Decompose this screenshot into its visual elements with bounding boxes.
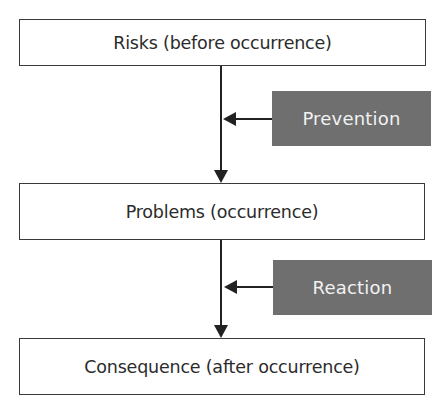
arrow-problems-to-consequence bbox=[214, 240, 228, 338]
stage-label: Problems (occurrence) bbox=[126, 202, 319, 222]
stage-label: Risks (before occurrence) bbox=[113, 33, 331, 53]
arrow-risks-to-problems bbox=[214, 66, 228, 183]
stage-problems: Problems (occurrence) bbox=[19, 183, 425, 240]
arrowhead-left-icon bbox=[224, 280, 237, 294]
action-label: Prevention bbox=[302, 108, 400, 129]
arrow-reaction-to-line bbox=[224, 280, 273, 294]
stage-label: Consequence (after occurrence) bbox=[84, 357, 360, 377]
action-label: Reaction bbox=[313, 277, 393, 298]
action-reaction: Reaction bbox=[273, 260, 432, 315]
action-prevention: Prevention bbox=[272, 91, 431, 146]
stage-consequence: Consequence (after occurrence) bbox=[19, 338, 425, 395]
arrowhead-down-icon bbox=[214, 170, 228, 183]
stage-risks: Risks (before occurrence) bbox=[19, 19, 426, 66]
arrowhead-down-icon bbox=[214, 325, 228, 338]
arrowhead-left-icon bbox=[223, 112, 236, 126]
arrow-prevention-to-line bbox=[223, 112, 272, 126]
